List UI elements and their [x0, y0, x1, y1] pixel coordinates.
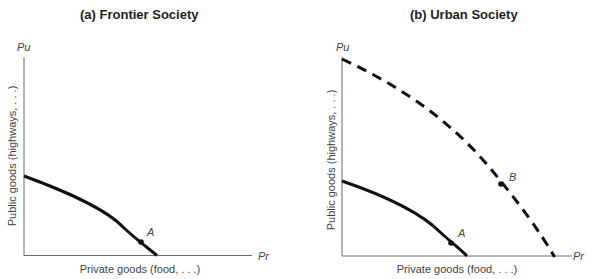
panel-b-urban-x-intercept-dot: [553, 255, 556, 258]
panel-a-y-axis-label: Public goods (highways, . . .): [6, 86, 18, 227]
panel-b-x-axis-label: Private goods (food, . . .): [397, 263, 517, 275]
panel-a-point-a-label: A: [146, 226, 154, 238]
panel-b-x-end-label: Pr: [573, 250, 585, 262]
panel-b-y-axis-label: Public goods (highways, . . .): [325, 90, 337, 231]
panel-b-frontier-ppf-curve: [342, 181, 467, 256]
ppf-charts: Pu Pr Public goods (highways, . . .) Pri…: [0, 0, 595, 279]
panel-a-x-end-label: Pr: [258, 250, 270, 262]
panel-b-point-a-label: A: [457, 227, 465, 239]
panel-b-point-a: [448, 240, 454, 246]
panel-b-y-end-label: Pu: [336, 41, 349, 53]
panel-a-y-end-label: Pu: [17, 41, 30, 53]
panel-b-point-b: [498, 181, 504, 187]
panel-a-chart: Pu Pr Public goods (highways, . . .) Pri…: [6, 41, 270, 275]
panel-b-urban-ppf-curve: [342, 59, 554, 256]
panel-a-x-axis-label: Private goods (food, . . .): [80, 263, 200, 275]
panel-b-point-b-label: B: [509, 171, 516, 183]
panel-a-ppf-curve: [24, 176, 157, 256]
panel-a-point-a: [138, 239, 144, 245]
panel-b-chart: Pu Pr Public goods (highways, . . .) Pri…: [325, 41, 585, 275]
